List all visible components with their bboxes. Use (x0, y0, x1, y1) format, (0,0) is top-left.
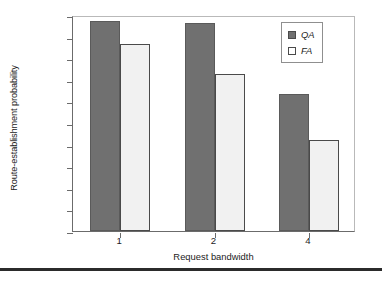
x-axis-title: Request bandwidth (72, 252, 355, 261)
bar-fa-2 (215, 74, 245, 231)
y-tick-mark (67, 82, 73, 83)
y-tick-mark (67, 168, 73, 169)
legend-item-fa: FA (288, 44, 315, 57)
y-tick-mark (67, 211, 73, 212)
bottom-rule (0, 268, 382, 271)
bar-qa-2 (185, 23, 215, 231)
x-tick-label: 1 (99, 236, 139, 246)
legend-swatch-qa-icon (288, 31, 296, 39)
legend-label-fa: FA (301, 46, 312, 55)
y-tick-mark (67, 190, 73, 191)
chart-legend: QA FA (281, 22, 323, 63)
y-tick-mark (67, 17, 73, 18)
y-axis-title: Route-establishment probability (6, 12, 22, 244)
figure: Route-establishment probability 0%10%20%… (0, 0, 382, 283)
y-tick-mark (67, 125, 73, 126)
y-tick-mark (67, 39, 73, 40)
legend-item-qa: QA (288, 28, 315, 41)
bar-fa-4 (309, 140, 339, 231)
y-tick-mark (67, 147, 73, 148)
x-tick-label: 4 (288, 236, 328, 246)
bar-qa-1 (90, 21, 120, 231)
legend-swatch-fa-icon (288, 47, 296, 55)
bar-fa-1 (120, 44, 150, 231)
x-tick-label: 2 (194, 236, 234, 246)
y-tick-mark (67, 60, 73, 61)
legend-label-qa: QA (301, 30, 315, 39)
y-tick-mark (67, 233, 73, 234)
bar-qa-4 (279, 94, 309, 231)
y-tick-mark (67, 103, 73, 104)
